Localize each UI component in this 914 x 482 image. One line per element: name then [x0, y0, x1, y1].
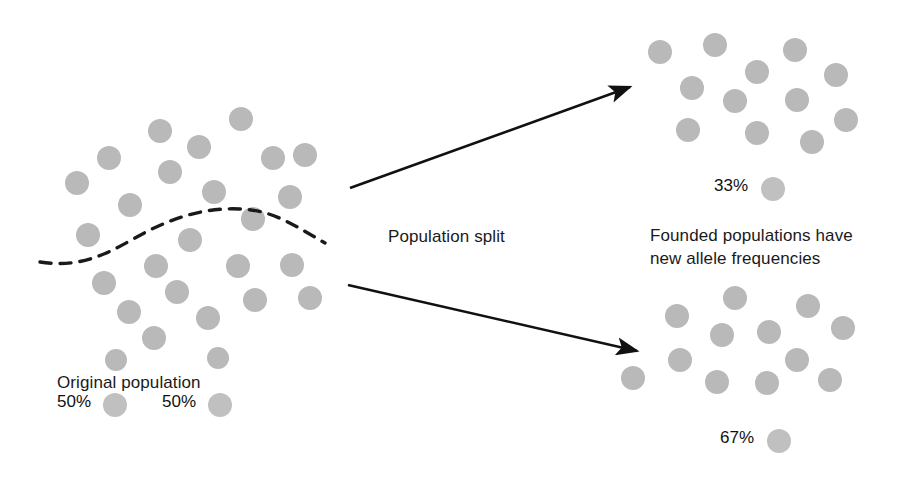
allele-dot: [158, 160, 182, 184]
arrow-to-bottom-population: [348, 285, 637, 351]
allele-dot: [118, 193, 142, 217]
allele-dot: [261, 146, 285, 170]
allele-dot: [723, 286, 747, 310]
allele-dot: [187, 135, 211, 159]
allele-dot: [293, 143, 317, 167]
allele-dot: [65, 171, 89, 195]
legend-original-swatch-b: [208, 393, 232, 417]
allele-dot: [92, 271, 116, 295]
founder-effect-diagram: Original population Population split Fou…: [0, 0, 914, 482]
arrow-to-top-population: [350, 87, 630, 188]
allele-dot: [298, 286, 322, 310]
legend-original-percent-a: 50%: [57, 392, 91, 412]
allele-dot: [757, 320, 781, 344]
allele-dot: [278, 185, 302, 209]
allele-dot: [142, 326, 166, 350]
allele-dot: [196, 306, 220, 330]
founded-populations-label: Founded populations have new allele freq…: [650, 225, 853, 271]
allele-dot: [710, 323, 734, 347]
allele-dot: [824, 63, 848, 87]
allele-dot: [755, 371, 779, 395]
allele-dot: [665, 304, 689, 328]
founded-bottom-population-dots: [621, 286, 855, 395]
allele-dot: [676, 118, 700, 142]
allele-dot: [680, 76, 704, 100]
allele-dot: [800, 130, 824, 154]
population-split-label: Population split: [388, 226, 505, 249]
allele-dot: [723, 89, 747, 113]
allele-dot: [831, 316, 855, 340]
allele-dot: [144, 254, 168, 278]
allele-dot: [785, 88, 809, 112]
allele-dot: [202, 180, 226, 204]
allele-dot: [178, 228, 202, 252]
allele-dot: [105, 349, 127, 371]
allele-dot: [834, 108, 858, 132]
legend-founded-top-swatch: [761, 177, 785, 201]
allele-dot: [705, 370, 729, 394]
allele-dot: [243, 288, 267, 312]
legend-original-swatch-a: [103, 393, 127, 417]
allele-dot: [648, 40, 672, 64]
allele-dot: [226, 254, 250, 278]
legend-founded-bottom-swatch: [767, 429, 791, 453]
allele-dot: [668, 348, 692, 372]
allele-dot: [703, 33, 727, 57]
legend-founded-top-percent: 33%: [714, 176, 748, 196]
original-population-dots: [65, 107, 322, 371]
allele-dot: [76, 223, 100, 247]
allele-dot: [165, 280, 189, 304]
allele-dot: [117, 300, 141, 324]
allele-dot: [280, 253, 304, 277]
split-arrows: [348, 87, 637, 351]
allele-dot: [785, 348, 809, 372]
allele-dot: [745, 121, 769, 145]
allele-dot: [621, 366, 645, 390]
allele-dot: [229, 107, 253, 131]
allele-dot: [148, 119, 172, 143]
allele-dot: [97, 146, 121, 170]
allele-dot: [783, 38, 807, 62]
legend-original-percent-b: 50%: [162, 392, 196, 412]
allele-dot: [818, 368, 842, 392]
allele-dot: [796, 294, 820, 318]
allele-dot: [207, 347, 229, 369]
allele-dot: [745, 60, 769, 84]
founded-top-population-dots: [648, 33, 858, 154]
legend-founded-bottom-percent: 67%: [720, 428, 754, 448]
